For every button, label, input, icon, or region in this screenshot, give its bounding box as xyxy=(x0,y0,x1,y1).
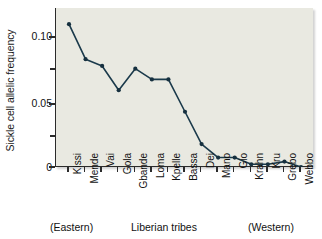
x-tick-label-loma: Loma xyxy=(155,153,167,213)
sickle-cell-frequency-chart: Sickle cell allelic frequency 0.10 0.05 … xyxy=(0,0,322,239)
data-point-kissi xyxy=(67,22,71,26)
data-point-gbande xyxy=(133,67,137,71)
x-tick-mark-kpelle xyxy=(167,167,169,172)
x-tick-label-dei: Dei xyxy=(205,153,217,213)
data-point-bassa xyxy=(183,110,187,114)
x-tick-label-vai: Vai xyxy=(105,153,117,213)
y-axis-tick-labels: 0.10 0.05 0 xyxy=(10,0,52,239)
x-tick-label-gio: Gio xyxy=(238,153,250,213)
x-tick-mark-loma xyxy=(150,167,152,172)
x-tick-label-webbo: Webbo xyxy=(304,153,316,213)
x-tick-mark-gola xyxy=(117,167,119,172)
x-tick-mark-dei xyxy=(200,167,202,172)
data-point-dei xyxy=(199,142,203,146)
x-tick-mark-bassa xyxy=(183,167,185,172)
x-tick-mark-krahn xyxy=(250,167,252,172)
x-tick-mark-grebo xyxy=(283,167,285,172)
region-label-eastern: (Eastern) xyxy=(50,221,93,233)
y-tick-label-0.05: 0.05 xyxy=(18,98,52,108)
x-tick-mark-kissi xyxy=(67,167,69,172)
x-tick-mark-gbande xyxy=(134,167,136,172)
x-tick-label-gola: Gola xyxy=(122,153,134,213)
y-tick-label-0: 0 xyxy=(18,162,52,172)
x-tick-mark-mende xyxy=(84,167,86,172)
x-tick-mark-gio xyxy=(233,167,235,172)
plot-area xyxy=(55,8,313,167)
x-tick-mark-webbo xyxy=(299,167,301,172)
data-point-gio xyxy=(233,155,237,159)
x-tick-label-krahn: Krahn xyxy=(254,153,266,213)
data-point-vai xyxy=(100,64,104,68)
x-tick-label-mano: Mano xyxy=(221,153,233,213)
data-point-loma xyxy=(150,77,154,81)
y-tick-label-0.10: 0.10 xyxy=(18,31,52,41)
data-point-kpelle xyxy=(166,77,170,81)
x-tick-label-grebo: Grebo xyxy=(287,153,299,213)
region-label-western: (Western) xyxy=(248,221,294,233)
data-point-gola xyxy=(117,88,121,92)
x-tick-label-bassa: Bassa xyxy=(188,153,200,213)
x-tick-mark-mano xyxy=(216,167,218,172)
x-tick-label-kru: Kru xyxy=(271,153,283,213)
data-line-series xyxy=(56,8,314,167)
x-axis-title: Liberian tribes xyxy=(131,221,197,233)
data-point-mende xyxy=(83,57,87,61)
x-tick-label-kissi: Kissi xyxy=(72,153,84,213)
x-tick-label-mende: Mende xyxy=(89,153,101,213)
x-tick-label-kpelle: Kpelle xyxy=(171,153,183,213)
x-tick-mark-kru xyxy=(266,167,268,172)
x-tick-label-gbande: Gbande xyxy=(138,153,150,213)
x-tick-mark-vai xyxy=(100,167,102,172)
data-point-kru xyxy=(266,162,270,166)
